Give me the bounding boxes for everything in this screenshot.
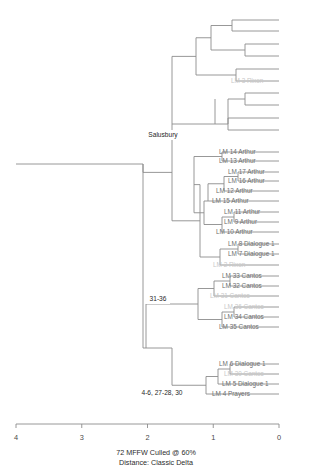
- leaf-label: LM 31 Cantos: [210, 292, 250, 299]
- leaf-label: LM 36 Cantos: [224, 303, 264, 310]
- tree-branch: [211, 26, 245, 51]
- tree-branch: [215, 99, 228, 124]
- leaf-label: LM 9 Arthur: [224, 218, 258, 225]
- leaf-label: LM 14 Arthur: [219, 148, 256, 155]
- leaf-label: LM 6 Dialogue 1: [219, 360, 266, 368]
- tree-branch: [146, 304, 198, 348]
- caption-line-2: Distance: Classic Delta: [119, 458, 193, 467]
- axis-tick-label: 0: [277, 433, 281, 442]
- tree-branch: [245, 44, 279, 56]
- tree-branch: [146, 348, 206, 385]
- tree-branch: [232, 20, 279, 31]
- tree-branch: [245, 93, 279, 105]
- caption-group: 72 MFFW Culled @ 60% Distance: Classic D…: [116, 448, 196, 467]
- leaf-label: LM 13 Arthur: [219, 157, 256, 164]
- axis-tick-label: 3: [80, 433, 84, 442]
- leaf-label: LM 12 Arthur: [216, 187, 253, 194]
- node-annotation: 4-6, 27-28, 30: [141, 389, 182, 396]
- leaf-label: LM 8 Dialogue 1: [228, 240, 275, 248]
- axis-tick-label: 2: [145, 433, 149, 442]
- leaf-label: LM 32 Cantos: [222, 282, 262, 289]
- tree-branch: [16, 164, 172, 172]
- dendrogram-canvas: LM 3 RixonLM 14 ArthurLM 13 ArthurLM 17 …: [0, 0, 313, 473]
- axis-baseline: [16, 424, 279, 428]
- node-annotation: Salusbury: [148, 131, 178, 139]
- axis-tick-label: 4: [14, 433, 18, 442]
- leaf-label: LM 16 Arthur: [228, 177, 265, 184]
- tree-branch: [228, 118, 279, 130]
- leaf-label: LM 15 Arthur: [212, 197, 249, 204]
- leaf-label-group: LM 3 RixonLM 14 ArthurLM 13 ArthurLM 17 …: [210, 77, 275, 398]
- leaf-label: LM 11 Arthur: [224, 208, 261, 215]
- leaf-label: LM 4 Prayers: [212, 390, 250, 398]
- axis-tick-label: 1: [211, 433, 215, 442]
- tree-branch: [228, 99, 245, 124]
- tree-branch: [204, 201, 222, 225]
- leaf-label: LM 5 Dialogue 1: [222, 380, 269, 388]
- leaf-label: LM 3 Rixon: [231, 77, 264, 84]
- tree-branch: [172, 56, 215, 124]
- leaf-label: LM 10 Arthur: [216, 228, 253, 235]
- node-annotation-group: Salusbury31-364-6, 27-28, 30: [134, 130, 190, 398]
- dendrogram-chart: LM 3 RixonLM 14 ArthurLM 13 ArthurLM 17 …: [0, 0, 313, 473]
- leaf-label: LM 17 Arthur: [228, 168, 265, 175]
- leaf-label: LM 7 Dialogue 1: [228, 250, 275, 258]
- caption-line-1: 72 MFFW Culled @ 60%: [116, 448, 196, 457]
- leaf-label: LM 34 Cantos: [224, 313, 264, 320]
- node-annotation: 31-36: [150, 295, 167, 302]
- leaf-label: LM 30 Cantos: [224, 370, 264, 377]
- tree-branch: [196, 38, 236, 75]
- axis-group: 43210: [14, 424, 281, 442]
- leaf-label: LM 35 Cantos: [219, 323, 259, 330]
- axis-tick-labels: 43210: [14, 433, 281, 442]
- leaf-label: LM 2 Rixon: [213, 261, 246, 268]
- leaf-label: LM 33 Cantos: [222, 272, 262, 279]
